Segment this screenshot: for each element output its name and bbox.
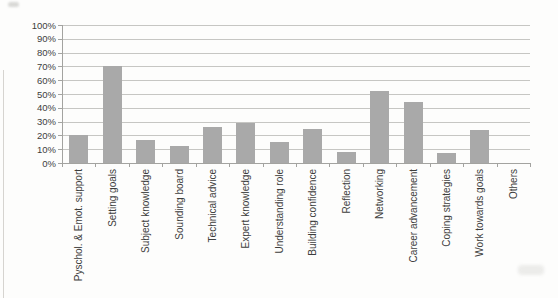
bar-sounding-board xyxy=(170,146,189,163)
y-tick-label-90: 90% xyxy=(20,33,56,44)
y-tick-label-40: 40% xyxy=(20,102,56,113)
bar-understanding-role xyxy=(270,142,289,163)
gridline-10 xyxy=(62,149,530,150)
y-tick-label-20: 20% xyxy=(20,130,56,141)
bar-work-towards-goals xyxy=(470,130,489,163)
gridline-50 xyxy=(62,94,530,95)
x-label-pyschol-emot-support: Pyschol. & Emot. support xyxy=(72,169,85,289)
x-label-sounding-board: Sounding board xyxy=(173,169,186,289)
y-tick-label-10: 10% xyxy=(20,144,56,155)
y-tick-label-70: 70% xyxy=(20,61,56,72)
bar-technical-advice xyxy=(203,127,222,163)
x-label-technical-advice: Technical advice xyxy=(206,169,219,289)
x-label-others: Others xyxy=(507,169,520,289)
x-label-career-advancement: Career advancement xyxy=(407,169,420,289)
y-tick-label-100: 100% xyxy=(20,20,56,31)
bar-career-advancement xyxy=(404,102,423,163)
bar-expert-knowledge xyxy=(236,123,255,163)
x-label-networking: Networking xyxy=(373,169,386,289)
bar-networking xyxy=(370,91,389,163)
gridline-80 xyxy=(62,53,530,54)
gridline-30 xyxy=(62,122,530,123)
bar-coping-strategies xyxy=(437,153,456,163)
x-axis-line xyxy=(62,163,531,164)
y-tick-label-0: 0% xyxy=(20,158,56,169)
y-tick-label-80: 80% xyxy=(20,47,56,58)
bar-reflection xyxy=(337,152,356,163)
x-label-reflection: Reflection xyxy=(340,169,353,289)
bar-building-confidence xyxy=(303,129,322,164)
x-label-building-confidence: Building confidence xyxy=(306,169,319,289)
scanned-bar-chart-page: 0%10%20%30%40%50%60%70%80%90%100%Pyschol… xyxy=(0,0,558,298)
x-label-expert-knowledge: Expert knowledge xyxy=(239,169,252,289)
x-label-setting-goals: Setting goals xyxy=(106,169,119,289)
x-label-work-towards-goals: Work towards goals xyxy=(473,169,486,289)
bar-subject-knowledge xyxy=(136,140,155,163)
gridline-90 xyxy=(62,39,530,40)
y-tick-label-30: 30% xyxy=(20,116,56,127)
gridline-40 xyxy=(62,108,530,109)
y-tick-label-50: 50% xyxy=(20,89,56,100)
y-tick-label-60: 60% xyxy=(20,75,56,86)
x-label-subject-knowledge: Subject knowledge xyxy=(139,169,152,289)
x-label-coping-strategies: Coping strategies xyxy=(440,169,453,289)
gridline-20 xyxy=(62,135,530,136)
gridline-60 xyxy=(62,80,530,81)
gridline-70 xyxy=(62,66,530,67)
x-label-understanding-role: Understanding role xyxy=(273,169,286,289)
bar-setting-goals xyxy=(103,66,122,163)
y-axis-line xyxy=(62,25,63,164)
bar-pyschol-emot-support xyxy=(69,135,88,163)
gridline-100 xyxy=(62,25,530,26)
bar-chart: 0%10%20%30%40%50%60%70%80%90%100%Pyschol… xyxy=(0,0,558,298)
